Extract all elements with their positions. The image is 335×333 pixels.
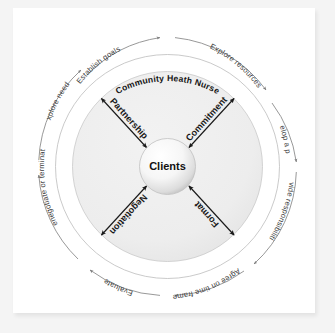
diagram-page: Establish goals Explore resources Develo… (0, 0, 335, 333)
cycle-label-explore-needs: Explore needs (0, 0, 71, 121)
center-label: Clients (149, 160, 186, 172)
cycle-label-evaluate: Evaluate (102, 277, 134, 298)
diagram-canvas: Establish goals Explore resources Develo… (0, 0, 335, 333)
center-node: Clients (140, 139, 196, 195)
